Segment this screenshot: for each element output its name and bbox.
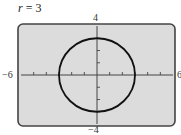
x-max-label: 6 bbox=[177, 69, 181, 80]
y-max-label: 4 bbox=[93, 12, 98, 23]
x-min-label: −6 bbox=[2, 69, 13, 80]
plot-area bbox=[0, 0, 181, 135]
y-min-label: −4 bbox=[88, 124, 99, 135]
